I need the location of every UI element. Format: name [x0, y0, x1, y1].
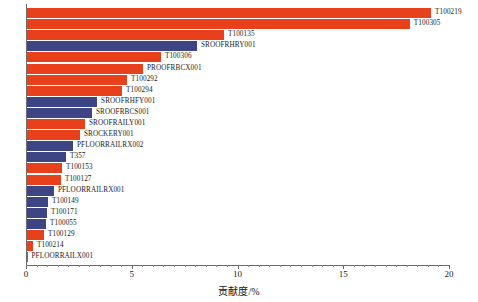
x-tick-minor: [111, 265, 112, 267]
bar-t100214: [26, 241, 33, 251]
x-tick-label: 20: [445, 269, 454, 279]
x-tick-minor: [438, 265, 439, 267]
bar-label: SROOFRBCS001: [96, 107, 150, 117]
x-tick-minor: [100, 265, 101, 267]
x-tick-minor: [37, 265, 38, 267]
x-tick-label: 5: [130, 269, 135, 279]
bar-label: T100149: [52, 196, 79, 206]
bar-label: T100214: [37, 240, 64, 250]
x-tick-minor: [47, 265, 48, 267]
bar-label: T100153: [66, 162, 93, 172]
bar-t357: [26, 152, 66, 162]
bar-label: T357: [70, 151, 86, 161]
bar-label: PFLOORRAILRX002: [77, 140, 144, 150]
bar-t100153: [26, 163, 62, 173]
contribution-bar-chart: T100219T100305T100135SROOFRHRY001T100306…: [0, 0, 478, 302]
x-tick-minor: [121, 265, 122, 267]
x-tick-minor: [174, 265, 175, 267]
x-axis-title: 贡献度/%: [0, 283, 478, 298]
x-tick-minor: [195, 265, 196, 267]
bar-label: T100294: [126, 85, 153, 95]
x-tick-label: 15: [339, 269, 348, 279]
bar-proofrbcx001: [26, 64, 143, 74]
x-tick-minor: [280, 265, 281, 267]
bar-t100055: [26, 219, 46, 229]
bar-label: T100306: [165, 51, 192, 61]
x-tick-minor: [58, 265, 59, 267]
x-tick-label: 10: [233, 269, 242, 279]
bar-label: T100171: [51, 207, 78, 217]
x-tick-minor: [68, 265, 69, 267]
bar-sroofrhfy001: [26, 97, 97, 107]
bar-label: T100055: [50, 218, 77, 228]
bar-label: T100129: [48, 229, 75, 239]
bar-label: T100219: [435, 7, 462, 17]
bar-label: PFLOORRAILRX001: [58, 185, 125, 195]
bar-label: SROOFRHRY001: [201, 40, 256, 50]
bar-t100294: [26, 86, 122, 96]
plot-area: T100219T100305T100135SROOFRHRY001T100306…: [0, 0, 478, 266]
x-tick-minor: [79, 265, 80, 267]
x-tick-minor: [227, 265, 228, 267]
x-tick-minor: [322, 265, 323, 267]
x-tick-minor: [206, 265, 207, 267]
bar-label: SROOFRAILY001: [89, 118, 146, 128]
bar-t100127: [26, 175, 61, 185]
bar-label: PROOFRBCX001: [147, 63, 202, 73]
bar-t100135: [26, 30, 224, 40]
bar-label: SROCKERY001: [84, 129, 134, 139]
bar-t100129: [26, 230, 44, 240]
x-tick-minor: [354, 265, 355, 267]
x-tick-minor: [153, 265, 154, 267]
bar-label: T100135: [228, 29, 255, 39]
bar-t100171: [26, 208, 47, 218]
x-tick-minor: [333, 265, 334, 267]
x-tick-minor: [185, 265, 186, 267]
x-tick-minor: [428, 265, 429, 267]
x-tick-minor: [89, 265, 90, 267]
x-tick-minor: [248, 265, 249, 267]
x-tick-minor: [386, 265, 387, 267]
bar-pfloorrailrx002: [26, 141, 73, 151]
bar-label: SROOFRHFY001: [101, 96, 155, 106]
x-tick-minor: [407, 265, 408, 267]
x-tick-minor: [301, 265, 302, 267]
x-tick-minor: [216, 265, 217, 267]
x-tick-minor: [364, 265, 365, 267]
bar-pfloorrailrx001: [26, 186, 54, 196]
bar-sroofrbcs001: [26, 108, 92, 118]
x-tick-minor: [312, 265, 313, 267]
x-tick-minor: [269, 265, 270, 267]
x-tick-minor: [142, 265, 143, 267]
x-tick-minor: [375, 265, 376, 267]
bar-t100219: [26, 8, 431, 18]
y-axis-line: [26, 4, 27, 266]
x-tick-minor: [163, 265, 164, 267]
bar-label: T100305: [414, 18, 441, 28]
bar-sroofrhry001: [26, 41, 197, 51]
bar-t100305: [26, 19, 410, 29]
x-tick-minor: [396, 265, 397, 267]
bar-sroofraily001: [26, 119, 85, 129]
x-tick-minor: [259, 265, 260, 267]
bar-t100306: [26, 52, 161, 62]
bar-label: T100127: [65, 174, 92, 184]
x-tick-label: 0: [24, 269, 29, 279]
bar-t100292: [26, 75, 127, 85]
bar-srockery001: [26, 130, 80, 140]
x-tick-minor: [290, 265, 291, 267]
x-tick-minor: [417, 265, 418, 267]
bar-t100149: [26, 197, 48, 207]
bar-label: T100292: [131, 74, 158, 84]
bar-label: PFLOORRAILX001: [32, 251, 94, 261]
